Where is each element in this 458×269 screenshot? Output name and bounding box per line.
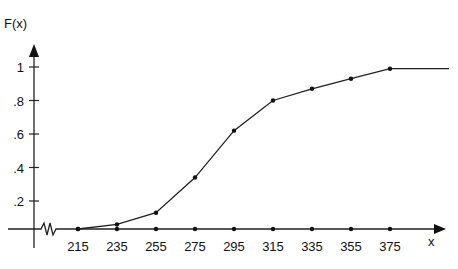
y-tick-label: .2 — [13, 194, 24, 209]
data-point — [349, 77, 353, 81]
x-tick-dot — [232, 227, 236, 231]
y-ticks: .2.4.6.81 — [13, 60, 39, 209]
cdf-line — [78, 69, 449, 229]
x-tick-label: 275 — [184, 239, 206, 254]
cdf-series — [76, 66, 449, 231]
y-tick-label: 1 — [17, 60, 24, 75]
y-axis-label: F(x) — [4, 16, 27, 31]
x-tick-label: 355 — [340, 239, 362, 254]
x-tick-dot — [193, 227, 197, 231]
x-tick-label: 295 — [223, 239, 245, 254]
x-tick-label: 335 — [301, 239, 323, 254]
data-point — [193, 175, 197, 179]
x-tick-dot — [115, 227, 119, 231]
data-point — [271, 98, 275, 102]
x-tick-dot — [310, 227, 314, 231]
x-tick-label: 215 — [67, 239, 89, 254]
x-tick-label: 375 — [379, 239, 401, 254]
x-axis-arrow-icon — [434, 224, 446, 234]
data-point — [76, 227, 80, 231]
y-tick-label: .6 — [13, 127, 24, 142]
x-axis — [8, 223, 438, 235]
x-tick-dot — [388, 227, 392, 231]
x-tick-dot — [271, 227, 275, 231]
cdf-chart: F(x) x .2.4.6.81 21523525527529531533535… — [0, 0, 458, 269]
x-tick-label: 235 — [106, 239, 128, 254]
data-point — [154, 211, 158, 215]
x-tick-dot — [349, 227, 353, 231]
x-tick-dot — [154, 227, 158, 231]
data-point — [388, 66, 392, 70]
x-ticks: 215235255275295315335355375 — [67, 227, 401, 254]
y-axis-arrow-icon — [29, 44, 39, 57]
data-point — [232, 128, 236, 132]
y-tick-label: .8 — [13, 94, 24, 109]
data-point — [115, 222, 119, 226]
x-tick-label: 315 — [262, 239, 284, 254]
x-tick-label: 255 — [145, 239, 167, 254]
data-point — [310, 87, 314, 91]
y-tick-label: .4 — [13, 161, 24, 176]
x-axis-label: x — [428, 234, 435, 249]
